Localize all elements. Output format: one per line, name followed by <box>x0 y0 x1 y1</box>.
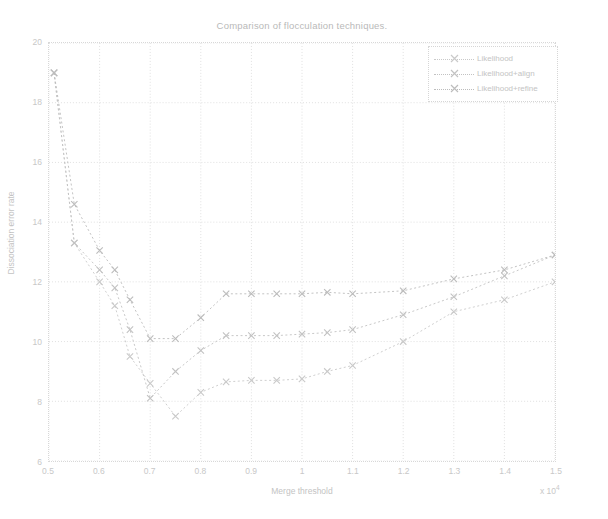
legend-marker-sample <box>434 68 474 80</box>
x-tick-label: 0.6 <box>79 466 119 476</box>
data-point-marker <box>147 395 153 401</box>
data-point-marker <box>349 362 355 368</box>
x-tick-label: 0.8 <box>180 466 220 476</box>
x-exponent-power: 4 <box>556 484 560 491</box>
data-point-marker <box>400 338 406 344</box>
legend-label: Likelihood+align <box>474 69 535 78</box>
data-point-marker <box>274 332 280 338</box>
data-point-marker <box>198 315 204 321</box>
data-series <box>51 70 555 420</box>
data-point-marker <box>299 376 305 382</box>
y-tick-label: 18 <box>8 97 42 107</box>
data-point-marker <box>248 377 254 383</box>
legend-item[interactable]: Likelihood+align <box>429 66 557 81</box>
data-series <box>51 70 555 402</box>
data-point-marker <box>96 279 102 285</box>
data-point-marker <box>96 267 102 273</box>
data-point-marker <box>552 279 555 285</box>
data-point-marker <box>552 252 555 258</box>
y-tick-label: 20 <box>8 37 42 47</box>
data-point-marker <box>112 303 118 309</box>
data-point-marker <box>248 332 254 338</box>
legend-marker-sample <box>434 53 474 65</box>
data-point-marker <box>147 335 153 341</box>
x-tick-label: 1 <box>282 466 322 476</box>
data-series <box>51 70 555 342</box>
data-point-marker <box>112 285 118 291</box>
x-tick-label: 1.1 <box>333 466 373 476</box>
legend-label: Likelihood <box>474 54 513 63</box>
data-point-marker <box>172 368 178 374</box>
data-point-marker <box>223 379 229 385</box>
data-point-marker <box>96 247 102 253</box>
legend-x-marker-icon <box>450 54 459 63</box>
legend-marker-sample <box>434 83 474 95</box>
x-tick-label: 1.3 <box>434 466 474 476</box>
data-point-marker <box>400 312 406 318</box>
x-tick-label: 0.5 <box>28 466 68 476</box>
x-tick-label: 1.5 <box>536 466 576 476</box>
x-tick-label: 0.7 <box>130 466 170 476</box>
data-point-marker <box>112 267 118 273</box>
x-axis-title: Merge threshold <box>48 486 556 496</box>
series-line <box>54 73 555 398</box>
data-point-marker <box>349 291 355 297</box>
chart-figure: Comparison of flocculation techniques. 6… <box>0 0 608 519</box>
data-point-marker <box>127 326 133 332</box>
legend-x-marker-icon <box>450 69 459 78</box>
data-point-marker <box>324 368 330 374</box>
data-point-marker <box>324 329 330 335</box>
data-point-marker <box>349 326 355 332</box>
data-point-marker <box>274 291 280 297</box>
legend-item[interactable]: Likelihood+refine <box>429 81 557 96</box>
x-tick-label: 1.2 <box>384 466 424 476</box>
data-point-marker <box>501 297 507 303</box>
data-point-marker <box>172 413 178 419</box>
data-point-marker <box>51 70 57 76</box>
data-point-marker <box>451 276 457 282</box>
x-tick-label: 1.4 <box>485 466 525 476</box>
series-line <box>54 73 555 416</box>
data-point-marker <box>198 347 204 353</box>
data-point-marker <box>451 294 457 300</box>
legend-label: Likelihood+refine <box>474 84 538 93</box>
legend[interactable]: LikelihoodLikelihood+alignLikelihood+ref… <box>428 46 558 102</box>
data-point-marker <box>127 353 133 359</box>
y-tick-label: 10 <box>8 337 42 347</box>
x-axis-exponent: x 104 <box>540 484 560 496</box>
data-point-marker <box>147 380 153 386</box>
data-point-marker <box>400 288 406 294</box>
data-point-marker <box>501 273 507 279</box>
data-series-layer <box>49 43 555 461</box>
data-point-marker <box>451 309 457 315</box>
legend-item[interactable]: Likelihood <box>429 51 557 66</box>
x-exponent-base: x 10 <box>540 486 556 496</box>
data-point-marker <box>198 389 204 395</box>
y-axis-title: Dissociation error rate <box>6 138 16 328</box>
data-point-marker <box>127 297 133 303</box>
y-tick-label: 8 <box>8 397 42 407</box>
data-point-marker <box>71 240 77 246</box>
plot-area <box>48 42 556 462</box>
x-tick-label: 0.9 <box>231 466 271 476</box>
legend-x-marker-icon <box>450 84 459 93</box>
